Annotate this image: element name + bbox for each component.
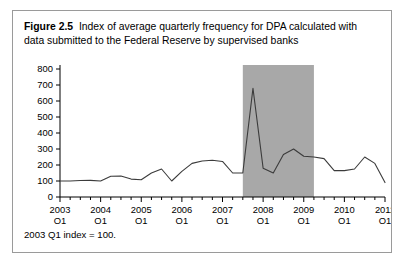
- x-axis-year-label: 2008: [253, 204, 274, 215]
- dpa-index-series: [60, 88, 385, 182]
- figure-footnote: 2003 Q1 index = 100.: [24, 229, 116, 240]
- y-axis-tick-label: 600: [37, 95, 53, 106]
- x-axis-year-label: 2011: [375, 204, 391, 215]
- x-axis-quarter-label: Q1: [54, 215, 67, 224]
- x-axis-quarter-label: Q1: [297, 215, 310, 224]
- y-axis-tick-label: 0: [48, 191, 53, 202]
- x-axis-quarter-label: Q1: [135, 215, 148, 224]
- line-chart: 01002003004005006007008002003Q12004Q1200…: [13, 59, 391, 224]
- x-axis-quarter-label: Q1: [338, 215, 351, 224]
- x-axis-year-label: 2007: [212, 204, 233, 215]
- recession-shaded-band: [243, 65, 314, 197]
- x-axis-quarter-label: Q1: [216, 215, 229, 224]
- x-axis-quarter-label: Q1: [379, 215, 391, 224]
- x-axis-year-label: 2005: [131, 204, 152, 215]
- y-axis-tick-label: 500: [37, 111, 53, 122]
- chart-plot-area: 01002003004005006007008002003Q12004Q1200…: [13, 59, 391, 224]
- x-axis-year-label: 2004: [90, 204, 111, 215]
- figure-caption: Figure 2.5 Index of average quarterly fr…: [24, 20, 376, 48]
- figure-label: Figure 2.5: [24, 21, 73, 32]
- y-axis-tick-label: 700: [37, 79, 53, 90]
- x-axis-quarter-label: Q1: [176, 215, 189, 224]
- figure-frame: Figure 2.5 Index of average quarterly fr…: [12, 10, 392, 253]
- x-axis-quarter-label: Q1: [94, 215, 107, 224]
- x-axis-year-label: 2009: [293, 204, 314, 215]
- y-axis-tick-label: 400: [37, 127, 53, 138]
- y-axis-tick-label: 300: [37, 143, 53, 154]
- x-axis-year-label: 2003: [50, 204, 71, 215]
- x-axis-quarter-label: Q1: [257, 215, 270, 224]
- y-axis-tick-label: 100: [37, 175, 53, 186]
- x-axis-year-label: 2010: [334, 204, 355, 215]
- y-axis-tick-label: 200: [37, 159, 53, 170]
- y-axis-tick-label: 800: [37, 63, 53, 74]
- x-axis-year-label: 2006: [171, 204, 192, 215]
